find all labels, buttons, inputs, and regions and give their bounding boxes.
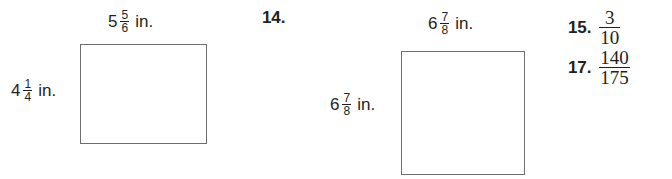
- rectangle-left-label-denominator: 4: [23, 90, 32, 103]
- rectangle-left-label: 4 1 4 in.: [11, 78, 56, 103]
- square-left-label-whole: 6: [330, 96, 339, 113]
- rectangle-left-label-whole: 4: [11, 82, 20, 99]
- rectangle-top-label-denominator: 6: [120, 21, 129, 34]
- rectangle-top-label-fraction: 5 6: [120, 9, 129, 34]
- square-left-label-unit: in.: [357, 96, 375, 113]
- answer-number-15: 15.: [568, 19, 591, 36]
- answer-row: 15. 3 10: [568, 8, 620, 47]
- answer-row: 17. 140 175: [568, 48, 630, 87]
- square-left-label-fraction: 7 8: [342, 92, 351, 117]
- rectangle-left-label-fraction: 1 4: [23, 78, 32, 103]
- rectangle-left-label-unit: in.: [38, 82, 56, 99]
- answer-numerator-15: 3: [604, 8, 616, 27]
- answer-denominator-17: 175: [599, 67, 630, 87]
- rectangle-top-label: 5 5 6 in.: [108, 9, 153, 34]
- square-top-label-denominator: 8: [440, 23, 449, 36]
- rectangle-top-label-whole: 5: [108, 13, 117, 30]
- answer-numerator-17: 140: [599, 48, 630, 67]
- square-top-label-fraction: 7 8: [440, 11, 449, 36]
- square-left-label-denominator: 8: [342, 104, 351, 117]
- rectangle-top-label-numerator: 5: [120, 9, 129, 21]
- answer-fraction-17: 140 175: [599, 48, 630, 87]
- square-shape: [401, 51, 525, 175]
- square-top-label-numerator: 7: [440, 11, 449, 23]
- rectangle-left-label-numerator: 1: [23, 78, 32, 90]
- square-top-label-whole: 6: [428, 15, 437, 32]
- answer-denominator-15: 10: [599, 27, 620, 47]
- rectangle-top-label-unit: in.: [135, 13, 153, 30]
- square-top-label: 6 7 8 in.: [428, 11, 473, 36]
- square-top-label-unit: in.: [455, 15, 473, 32]
- answer-fraction-15: 3 10: [599, 8, 620, 47]
- exercise-number-14: 14.: [262, 9, 285, 26]
- square-left-label: 6 7 8 in.: [330, 92, 375, 117]
- answer-number-17: 17.: [568, 59, 591, 76]
- rectangle-shape: [80, 44, 207, 144]
- square-left-label-numerator: 7: [342, 92, 351, 104]
